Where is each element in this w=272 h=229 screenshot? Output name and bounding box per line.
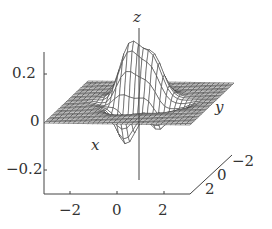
- ztick-label: 0: [30, 114, 40, 129]
- ytick-label: −2: [232, 154, 254, 169]
- xtick-label: −2: [59, 203, 81, 218]
- ytick-label: 2: [205, 182, 215, 197]
- z-axis-label: z: [133, 10, 141, 25]
- x-axis-label: x: [91, 138, 99, 153]
- plot-canvas: [0, 0, 272, 229]
- ztick-label: 0.2: [12, 66, 36, 81]
- y-axis-label: y: [215, 100, 223, 115]
- ytick-label: 0: [217, 168, 227, 183]
- ztick-label: −0.2: [6, 162, 42, 177]
- surface-plot: z x y 0.2 0 −0.2 −2 0 2 2 0 −2: [0, 0, 272, 229]
- surface-mesh: [44, 28, 234, 180]
- mesh-cell: [185, 124, 191, 126]
- xtick-label: 2: [158, 203, 168, 218]
- xtick-label: 0: [112, 203, 122, 218]
